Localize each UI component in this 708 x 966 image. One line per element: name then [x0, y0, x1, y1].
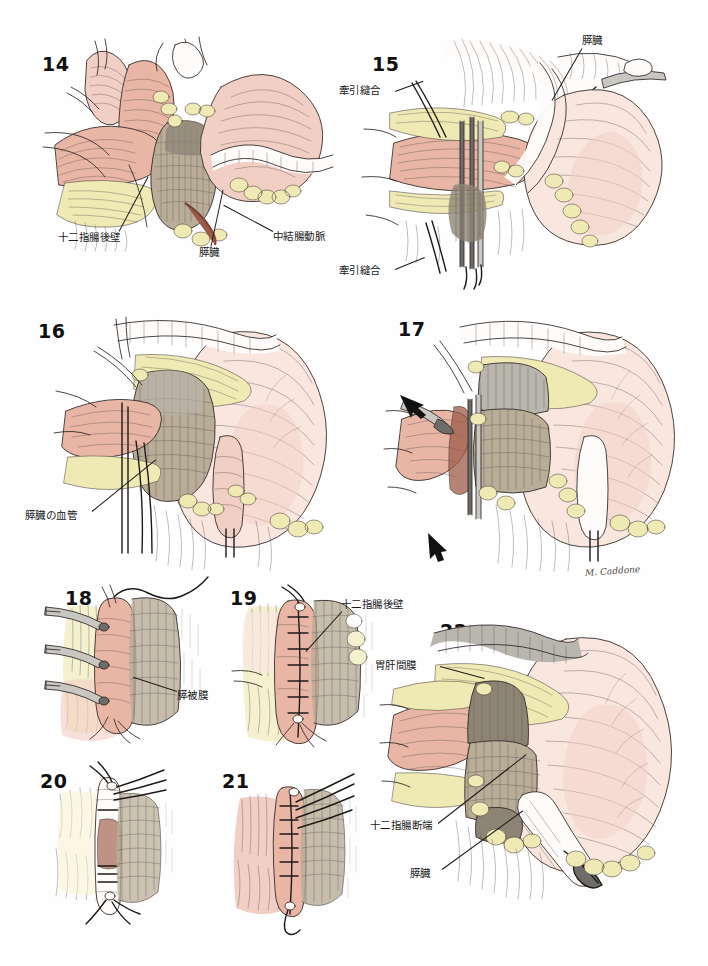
figure-14: 14	[35, 35, 335, 285]
figure-21-illustration	[218, 762, 388, 932]
figure-22: 22	[380, 605, 690, 905]
figure-14-illustration	[35, 35, 335, 285]
figure-20: 20	[38, 762, 208, 927]
figure-17-arrow-lower	[428, 533, 447, 562]
figure-18-label-pancreatic-capsule: 膵被膜	[177, 690, 208, 702]
figure-15-illustration	[350, 35, 680, 290]
figure-17-illustration	[380, 315, 700, 590]
figure-18: 18	[40, 585, 220, 745]
figure-14-label-pancreas: 膵臓	[199, 247, 220, 259]
figure-16-illustration	[30, 315, 350, 580]
figure-20-illustration	[38, 762, 208, 927]
figure-22-label-gastrohepatic-ligament: 胃肝間膜	[375, 660, 417, 672]
figure-15-label-pancreas: 膵臓	[582, 35, 603, 47]
figure-15: 15	[350, 35, 680, 290]
figure-16: 16	[30, 315, 350, 580]
figure-22-illustration	[380, 605, 690, 905]
figure-18-illustration	[40, 585, 220, 745]
figure-22-label-duodenal-stump: 十二指腸断端	[370, 820, 432, 832]
atlas-page: 14	[0, 0, 708, 966]
figure-14-label-duodenum-posterior-wall: 十二指腸後壁	[58, 232, 120, 244]
figure-15-label-traction-suture-upper: 牽引縫合	[339, 85, 381, 97]
figure-17: 17	[380, 315, 700, 590]
figure-14-label-middle-colic-artery: 中結腸動脈	[273, 231, 325, 243]
figure-21: 21	[218, 762, 388, 932]
figure-15-label-traction-suture-lower: 牽引縫合	[339, 265, 381, 277]
figure-16-label-pancreatic-vessels: 膵臓の血管	[25, 510, 77, 522]
figure-22-label-pancreas: 膵臓	[410, 868, 431, 880]
